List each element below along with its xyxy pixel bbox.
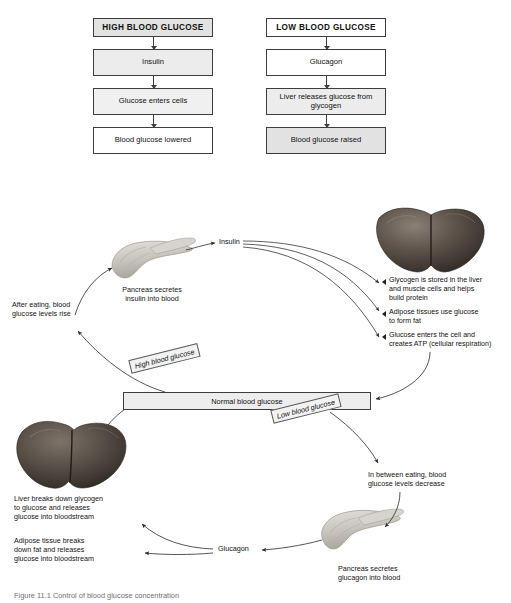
in-between-eating-label: In between eating, blood glucose levels … [368,470,493,488]
high-blood-glucose-label: High blood glucose [128,343,200,374]
insulin-effects-list: Glycogen is stored in the liver and musc… [382,276,510,354]
liver-breakdown-label: Liver breaks down glycogen to glucose an… [14,494,139,522]
pancreas-bottom-illustration [322,509,404,549]
glucagon-label: Glucagon [216,544,251,553]
flow-box-low-blood-glucose: LOW BLOOD GLUCOSE [266,18,386,37]
arrow-low-blood-glucose [330,412,378,463]
flow-arrow-left-3 [153,115,154,127]
pancreas-top-caption: Pancreas secretes insulin into blood [112,285,192,303]
insulin-effect-item: Glucose enters the cell and creates ATP … [382,331,510,349]
figure-caption: Figure 11.1 Control of blood glucose con… [14,591,179,600]
insulin-label: Insulin [217,237,242,246]
arrow-glucagon-to-liver [142,524,213,549]
arrow-insulin-to-effect-1 [243,241,379,283]
arrow-pancreas-to-glucagon [262,540,322,550]
flow-arrow-right-2 [326,76,327,88]
flow-box-label: Blood glucose lowered [115,136,191,145]
flow-box-label: LOW BLOOD GLUCOSE [276,23,376,32]
flow-box-glucagon: Glucagon [266,49,386,76]
arrow-pancreas-to-insulin [186,243,215,250]
flow-box-label: Glucose enters cells [119,97,187,106]
liver-bottom-illustration [17,421,126,488]
flow-arrow-right-1 [326,37,327,49]
flow-box-label: Blood glucose raised [291,136,362,145]
flow-arrow-left-2 [153,76,154,88]
flow-box-high-blood-glucose: HIGH BLOOD GLUCOSE [93,18,213,37]
flow-arrow-right-3 [326,115,327,127]
flow-box-blood-glucose-raised: Blood glucose raised [266,127,386,154]
after-eating-label: After eating, blood glucose levels rise [12,300,107,318]
flow-box-label: HIGH BLOOD GLUCOSE [102,23,203,32]
flow-box-label: Glucagon [310,58,343,67]
flow-box-glucose-enters-cells: Glucose enters cells [93,88,213,115]
pancreas-bottom-caption: Pancreas secretes glucagon into blood [338,564,438,582]
flow-box-label: Liver releases glucose from glycogen [267,93,385,110]
arrow-in-between-to-pancreas [385,492,400,527]
flow-arrow-left-1 [153,37,154,49]
insulin-effect-item: Adipose tissues use glucose to form fat [382,308,510,326]
arrow-insulin-to-effect-3 [243,247,379,337]
pancreas-top-illustration [112,238,196,278]
flow-box-label: Insulin [142,58,164,67]
arrow-glucagon-to-adipose [145,553,213,555]
normal-blood-glucose-label: Normal blood glucose [211,397,282,406]
flow-box-blood-glucose-lowered: Blood glucose lowered [93,127,213,154]
flow-box-insulin: Insulin [93,49,213,76]
arrow-insulin-to-effect-2 [243,244,379,311]
diagram-page: HIGH BLOOD GLUCOSE Insulin Glucose enter… [0,0,511,603]
liver-top-illustration [377,208,485,272]
insulin-effect-item: Glycogen is stored in the liver and musc… [382,276,510,304]
flow-box-liver-releases-glucose: Liver releases glucose from glycogen [266,88,386,115]
arrow-effects-to-normal-glucose [376,352,430,399]
adipose-label: Adipose tissue breaks down fat and relea… [14,536,129,564]
